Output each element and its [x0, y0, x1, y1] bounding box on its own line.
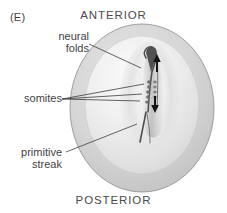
posterior-label: POSTERIOR: [0, 194, 227, 207]
neural-folds-label: neural folds: [27, 30, 89, 55]
anterior-label: ANTERIOR: [0, 9, 227, 22]
somites-label: somites: [4, 92, 62, 104]
primitive-streak-label: primitive streak: [0, 146, 62, 171]
embryo-figure: (E) ANTERIOR POSTERIOR neural folds somi…: [0, 0, 227, 213]
